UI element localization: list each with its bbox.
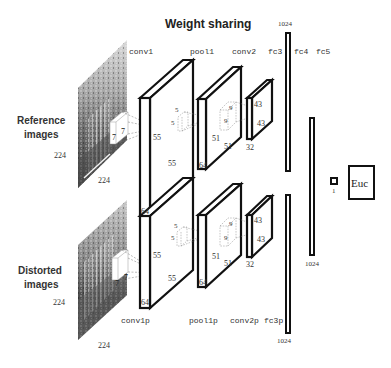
reference-height-label: 224 bbox=[54, 151, 66, 160]
conv2-w: 43 bbox=[257, 119, 265, 128]
fc3p-bar bbox=[286, 195, 290, 333]
fc5-size: 1 bbox=[332, 187, 336, 195]
pool1p-d: 64 bbox=[199, 278, 207, 287]
pool1-h: 51 bbox=[212, 134, 220, 143]
pool1p-kernel-b: 5 bbox=[171, 234, 175, 242]
reference-width-label: 224 bbox=[98, 176, 110, 185]
conv2p-kernel-a: 9 bbox=[229, 220, 233, 228]
reference-label-line2: images bbox=[24, 129, 59, 140]
conv2p-block bbox=[247, 196, 272, 257]
euclidean-output-label: Euc bbox=[351, 177, 368, 189]
fc3-size: 1024 bbox=[278, 20, 293, 28]
conv1p-h: 55 bbox=[153, 251, 161, 260]
ref-kernel-label-b: 7 bbox=[121, 127, 125, 136]
conv2p-kernel-b: 9 bbox=[224, 234, 228, 242]
fc3p-size: 1024 bbox=[277, 337, 292, 345]
conv1-w: 55 bbox=[168, 159, 176, 168]
pool1-block bbox=[198, 67, 241, 169]
conv2p-h: 43 bbox=[254, 216, 262, 225]
pool1p-block bbox=[198, 184, 241, 287]
conv1-d-top: 64 bbox=[141, 207, 149, 216]
fc4-bar bbox=[310, 118, 314, 255]
pool1-kernel-a: 5 bbox=[175, 106, 179, 114]
fc3-bar bbox=[286, 33, 290, 171]
dist-kernel-label-a: 7 bbox=[115, 279, 119, 288]
pool1-kernel-b: 5 bbox=[171, 119, 175, 127]
fc4-name: fc4 bbox=[294, 47, 309, 56]
pool1-w: 51 bbox=[224, 142, 232, 151]
distorted-width-label: 224 bbox=[98, 341, 110, 350]
conv1p-d: 64 bbox=[141, 298, 149, 307]
distorted-label-line2: images bbox=[24, 279, 59, 290]
fc5-box bbox=[331, 178, 337, 184]
conv2-block bbox=[247, 80, 272, 139]
pool1-name: pool1 bbox=[190, 47, 214, 56]
pool1p-h: 51 bbox=[212, 252, 220, 261]
conv2-h: 43 bbox=[254, 100, 262, 109]
fc3-name: fc3 bbox=[268, 47, 283, 56]
pool1-d: 64 bbox=[199, 161, 207, 170]
distorted-label-line1: Distorted bbox=[18, 265, 62, 276]
dist-kernel-label-b: 7 bbox=[124, 273, 128, 282]
pool1p-kernel-a: 5 bbox=[174, 222, 178, 230]
conv1p-w: 55 bbox=[168, 274, 176, 283]
fc3p-name: fc3p bbox=[264, 316, 283, 325]
fc4-size: 1024 bbox=[305, 260, 320, 268]
conv1p-name: conv1p bbox=[121, 316, 150, 325]
pool1p-w: 51 bbox=[224, 259, 232, 268]
conv2-kernel-a: 9 bbox=[229, 104, 233, 112]
reference-label-line1: Reference bbox=[17, 115, 66, 126]
conv2-name: conv2 bbox=[232, 47, 256, 56]
conv2-kernel-b: 9 bbox=[224, 117, 228, 125]
conv2p-w: 43 bbox=[257, 235, 265, 244]
conv2p-name: conv2p bbox=[230, 316, 259, 325]
ref-kernel-label-a: 7 bbox=[112, 133, 116, 142]
conv1-name: conv1 bbox=[129, 47, 153, 56]
conv2-d: 32 bbox=[246, 143, 254, 152]
distorted-height-label: 224 bbox=[53, 298, 65, 307]
cnn-architecture-diagram: Weight sharing 7 7 Reference images 224 … bbox=[0, 0, 391, 368]
conv2p-d: 32 bbox=[246, 260, 254, 269]
title-weight-sharing: Weight sharing bbox=[165, 17, 251, 31]
pool1p-name: pool1p bbox=[189, 316, 218, 325]
fc5-name: fc5 bbox=[316, 47, 331, 56]
conv1-h: 55 bbox=[153, 133, 161, 142]
